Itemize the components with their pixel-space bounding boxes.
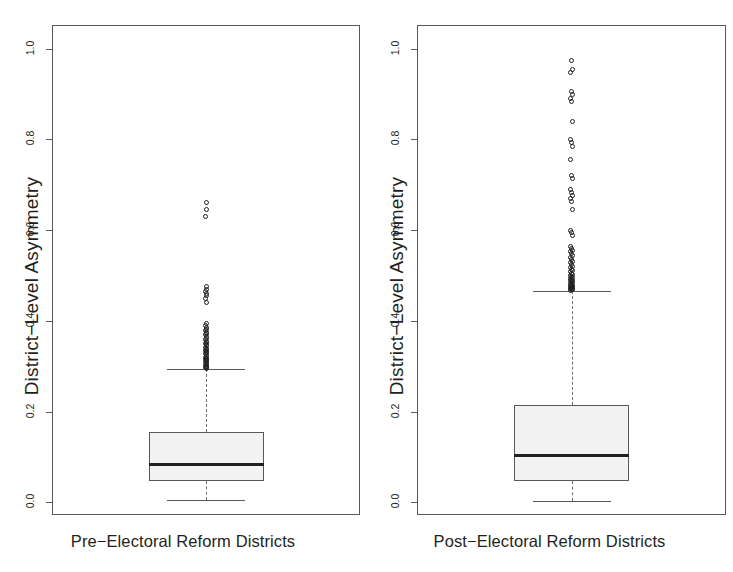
y-tick-label: 0.6	[389, 216, 401, 242]
median-line	[514, 454, 629, 457]
y-tick-mark	[411, 49, 418, 50]
outlier-point	[570, 176, 575, 181]
whisker-upper	[206, 369, 207, 433]
y-tick-label: 0.0	[24, 488, 36, 514]
outlier-point	[570, 119, 575, 124]
outlier-point	[570, 233, 575, 238]
y-axis-label: District−Level Asymmetry	[386, 156, 408, 416]
outlier-point	[569, 99, 574, 104]
whisker-cap-lower	[167, 500, 245, 501]
panel-post-reform: District−Level Asymmetry 0.00.20.40.60.8…	[366, 0, 733, 572]
y-tick-label: 0.4	[389, 307, 401, 333]
y-tick-label: 0.0	[389, 488, 401, 514]
panel-pre-reform: District−Level Asymmetry 0.00.20.40.60.8…	[0, 0, 366, 572]
outlier-point	[568, 288, 573, 293]
y-tick-label: 0.8	[24, 125, 36, 151]
outlier-point	[203, 214, 208, 219]
y-tick-mark	[411, 139, 418, 140]
outlier-point	[204, 300, 209, 305]
whisker-cap-lower	[533, 501, 611, 502]
y-tick-mark	[411, 412, 418, 413]
outlier-point	[570, 207, 575, 212]
whisker-lower	[572, 481, 573, 501]
y-tick-label: 1.0	[24, 35, 36, 61]
y-tick-mark	[46, 502, 53, 503]
whisker-upper	[572, 291, 573, 404]
box-iqr	[149, 432, 264, 481]
y-tick-mark	[46, 49, 53, 50]
plot-area-pre-reform: 0.00.20.40.60.81.0	[52, 25, 360, 515]
y-tick-label: 0.6	[24, 216, 36, 242]
outlier-point	[568, 70, 573, 75]
y-tick-mark	[411, 321, 418, 322]
y-axis-label: District−Level Asymmetry	[21, 156, 43, 416]
y-tick-mark	[46, 321, 53, 322]
outlier-point	[204, 366, 209, 371]
y-tick-mark	[46, 139, 53, 140]
y-tick-mark	[46, 412, 53, 413]
box-iqr	[514, 405, 629, 481]
y-tick-label: 0.2	[24, 398, 36, 424]
x-axis-label-post-reform: Post−Electoral Reform Districts	[366, 532, 733, 551]
plot-area-post-reform: 0.00.20.40.60.81.0	[417, 25, 726, 515]
y-tick-mark	[411, 502, 418, 503]
outlier-point	[569, 58, 574, 63]
y-tick-label: 1.0	[389, 35, 401, 61]
y-tick-label: 0.2	[389, 398, 401, 424]
boxplot-figure: District−Level Asymmetry 0.00.20.40.60.8…	[0, 0, 733, 572]
x-axis-label-pre-reform: Pre−Electoral Reform Districts	[0, 532, 366, 551]
outlier-point	[568, 157, 573, 162]
outlier-point	[204, 200, 209, 205]
y-tick-mark	[411, 230, 418, 231]
outlier-point	[204, 207, 209, 212]
median-line	[149, 463, 264, 466]
outlier-point	[570, 144, 575, 149]
y-tick-label: 0.8	[389, 125, 401, 151]
y-tick-mark	[46, 230, 53, 231]
y-tick-label: 0.4	[24, 307, 36, 333]
whisker-lower	[206, 481, 207, 501]
outlier-point	[569, 199, 574, 204]
